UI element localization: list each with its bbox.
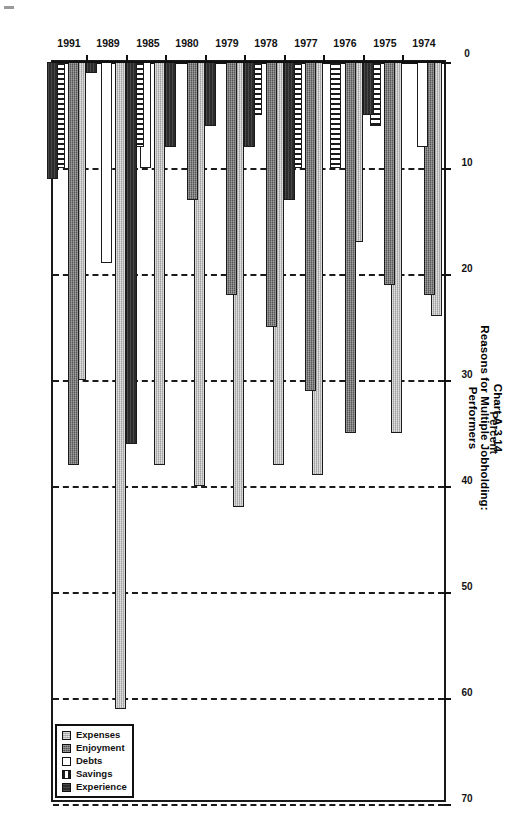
tick-label-40: 40 bbox=[461, 475, 472, 486]
tick-10 bbox=[444, 168, 451, 170]
bar-group-1977: 1977 bbox=[286, 62, 326, 800]
bar-1975-enjoyment bbox=[384, 62, 395, 285]
legend-label-expenses: Expenses bbox=[76, 730, 120, 740]
chart-legend: ExpensesEnjoymentDebtsSavingsExperience bbox=[55, 724, 134, 798]
group-separator-1975 bbox=[403, 55, 405, 62]
bar-group-1985: 1985 bbox=[128, 62, 168, 800]
bar-1985-expenses bbox=[155, 62, 166, 465]
plot-area: Percent 010203040506070 1974197519761977… bbox=[51, 60, 446, 802]
chart-page: Chart A-3.14 Reasons for Multiple Jobhol… bbox=[0, 0, 512, 836]
category-label-1985: 1985 bbox=[133, 36, 163, 50]
legend-swatch-experience bbox=[62, 783, 71, 792]
legend-item-debts[interactable]: Debts bbox=[62, 756, 127, 766]
bar-1976-savings bbox=[330, 62, 341, 168]
tick-label-50: 50 bbox=[461, 581, 472, 592]
legend-item-enjoyment[interactable]: Enjoyment bbox=[62, 743, 127, 753]
tick-label-10: 10 bbox=[461, 157, 472, 168]
bar-1974-debts bbox=[417, 62, 428, 147]
tick-label-20: 20 bbox=[461, 263, 472, 274]
group-separator-1989 bbox=[126, 55, 128, 62]
group-separator-1991 bbox=[87, 55, 89, 62]
legend-item-expenses[interactable]: Expenses bbox=[62, 730, 127, 740]
category-label-1976: 1976 bbox=[330, 36, 360, 50]
bar-group-1980: 1980 bbox=[168, 62, 208, 800]
category-label-1977: 1977 bbox=[291, 36, 321, 50]
group-separator-1979 bbox=[245, 55, 247, 62]
category-label-1979: 1979 bbox=[212, 36, 242, 50]
bar-1989-debts bbox=[101, 62, 112, 263]
bar-1979-enjoyment bbox=[226, 62, 237, 295]
tick-60 bbox=[444, 698, 451, 700]
category-label-1989: 1989 bbox=[93, 36, 123, 50]
legend-swatch-expenses bbox=[62, 731, 71, 740]
tick-40 bbox=[444, 486, 451, 488]
bar-1977-enjoyment bbox=[305, 62, 316, 391]
category-label-1975: 1975 bbox=[370, 36, 400, 50]
bar-group-1989: 1989 bbox=[89, 62, 129, 800]
bar-group-1978: 1978 bbox=[247, 62, 287, 800]
x-axis-title: Percent bbox=[488, 62, 500, 804]
tick-70 bbox=[444, 804, 451, 806]
legend-item-savings[interactable]: Savings bbox=[62, 769, 127, 779]
group-separator-1978 bbox=[284, 55, 286, 62]
tick-label-70: 70 bbox=[461, 793, 472, 804]
bar-group-1979: 1979 bbox=[207, 62, 247, 800]
category-label-1974: 1974 bbox=[409, 36, 439, 50]
legend-label-experience: Experience bbox=[76, 782, 127, 792]
tick-30 bbox=[444, 380, 451, 382]
category-label-1980: 1980 bbox=[172, 36, 202, 50]
legend-label-debts: Debts bbox=[76, 756, 102, 766]
legend-label-savings: Savings bbox=[76, 769, 112, 779]
gridline-70 bbox=[53, 804, 444, 806]
legend-swatch-debts bbox=[62, 757, 71, 766]
bar-group-1974: 1974 bbox=[405, 62, 445, 800]
group-separator-1985 bbox=[166, 55, 168, 62]
page-corner-mark bbox=[4, 6, 14, 9]
legend-swatch-enjoyment bbox=[62, 744, 71, 753]
bar-group-1976: 1976 bbox=[326, 62, 366, 800]
group-separator-1976 bbox=[363, 55, 365, 62]
bar-1980-enjoyment bbox=[187, 62, 198, 200]
tick-0 bbox=[444, 62, 451, 64]
group-separator-1977 bbox=[324, 55, 326, 62]
tick-label-0: 0 bbox=[464, 48, 470, 59]
legend-item-experience[interactable]: Experience bbox=[62, 782, 127, 792]
tick-label-30: 30 bbox=[461, 369, 472, 380]
tick-50 bbox=[444, 592, 451, 594]
bar-group-1975: 1975 bbox=[365, 62, 405, 800]
tick-20 bbox=[444, 274, 451, 276]
group-separator-1980 bbox=[205, 55, 207, 62]
bar-1976-enjoyment bbox=[345, 62, 356, 433]
category-label-1991: 1991 bbox=[54, 36, 84, 50]
bar-1989-expenses bbox=[115, 62, 126, 709]
bar-1978-enjoyment bbox=[266, 62, 277, 327]
title-line-3: Performers bbox=[467, 0, 480, 836]
bar-1991-enjoyment bbox=[68, 62, 79, 465]
tick-label-60: 60 bbox=[461, 687, 472, 698]
bar-group-1991: 1991 bbox=[49, 62, 89, 800]
legend-swatch-savings bbox=[62, 770, 71, 779]
category-label-1978: 1978 bbox=[251, 36, 281, 50]
legend-label-enjoyment: Enjoyment bbox=[76, 743, 125, 753]
rotated-chart-canvas: Chart A-3.14 Reasons for Multiple Jobhol… bbox=[0, 0, 512, 836]
bar-1991-experience bbox=[47, 62, 58, 179]
